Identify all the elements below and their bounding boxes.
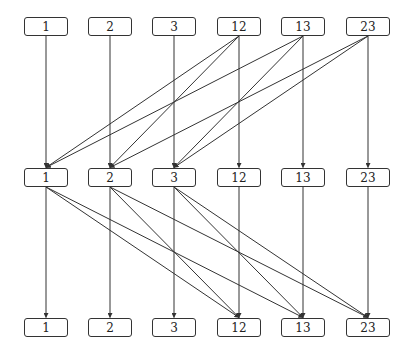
- top-node-12: 12: [217, 17, 261, 36]
- layered-diagram: 1 2 3 12 13 23 1 2 3 12 13 23 1 2 3 12 1…: [0, 0, 413, 354]
- top-node-23: 23: [346, 17, 390, 36]
- middle-node-2: 2: [88, 168, 132, 187]
- bottom-node-1: 1: [24, 318, 68, 337]
- middle-node-23: 23: [346, 168, 390, 187]
- middle-node-12: 12: [217, 168, 261, 187]
- top-node-2: 2: [88, 17, 132, 36]
- top-node-3: 3: [152, 17, 196, 36]
- edge-arrow: [46, 36, 239, 168]
- middle-node-3: 3: [152, 168, 196, 187]
- bottom-node-2: 2: [88, 318, 132, 337]
- middle-node-1: 1: [24, 168, 68, 187]
- bottom-node-23: 23: [346, 318, 390, 337]
- bottom-node-13: 13: [281, 318, 325, 337]
- edge-arrow: [174, 187, 368, 318]
- edge-arrow: [46, 187, 239, 318]
- bottom-node-12: 12: [217, 318, 261, 337]
- edge-arrow: [174, 36, 368, 168]
- bottom-node-3: 3: [152, 318, 196, 337]
- top-node-13: 13: [281, 17, 325, 36]
- middle-node-13: 13: [281, 168, 325, 187]
- top-node-1: 1: [24, 17, 68, 36]
